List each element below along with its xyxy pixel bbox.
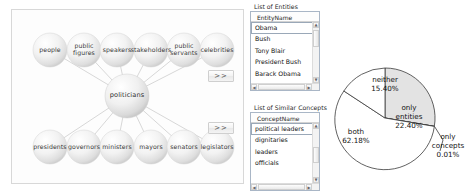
- concept-graph-panel: people public figures speakers stakehold…: [11, 9, 244, 184]
- coverage-pie-chart: neither 15.40% only entities 22.40% both…: [322, 55, 474, 192]
- scroll-left-icon[interactable]: ◀: [251, 84, 257, 90]
- pie-leader-line: [435, 127, 443, 151]
- list-item[interactable]: officials: [251, 158, 319, 170]
- concepts-rows: political leaders dignitaries leaders of…: [251, 123, 319, 183]
- entities-rows: Obama Bush Tony Blair President Bush Bar…: [251, 22, 319, 83]
- scroll-right-icon[interactable]: ▶: [306, 84, 312, 90]
- graph-edges: [12, 10, 243, 183]
- concepts-horizontal-scrollbar[interactable]: ◀ ▶: [251, 183, 319, 190]
- scroll-up-icon[interactable]: ▲: [313, 123, 319, 129]
- entities-column-header[interactable]: EntityName: [251, 12, 319, 22]
- list-item[interactable]: dignitaries: [251, 135, 319, 147]
- scroll-thumb[interactable]: [313, 147, 319, 163]
- table-row[interactable]: Tony Blair: [251, 45, 319, 57]
- scroll-up-icon[interactable]: ▲: [313, 22, 319, 28]
- pie-slice-only-entities[interactable]: [385, 68, 435, 126]
- concepts-column-header[interactable]: ConceptName: [251, 113, 319, 123]
- pie-svg: [322, 55, 474, 192]
- table-row[interactable]: Bush: [251, 34, 319, 46]
- concepts-vertical-scrollbar[interactable]: ▲ ▼: [312, 123, 319, 183]
- table-row[interactable]: Obama: [251, 22, 319, 34]
- table-row[interactable]: President Bush: [251, 57, 319, 69]
- scroll-right-icon[interactable]: ▶: [306, 184, 312, 190]
- screenshot-root: people public figures speakers stakehold…: [0, 0, 474, 192]
- concepts-panel: List of Similar Concepts ConceptName pol…: [250, 104, 320, 191]
- entities-vertical-scrollbar[interactable]: ▲ ▼: [312, 22, 319, 83]
- scroll-thumb[interactable]: [258, 84, 305, 90]
- entities-panel: List of Entities EntityName Obama Bush T…: [250, 3, 320, 91]
- list-item[interactable]: leaders: [251, 146, 319, 158]
- scroll-left-icon[interactable]: ◀: [251, 184, 257, 190]
- concepts-grid[interactable]: ConceptName political leaders dignitarie…: [250, 112, 320, 191]
- list-item[interactable]: political leaders: [251, 123, 319, 135]
- entities-caption: List of Entities: [250, 3, 320, 10]
- expand-top-button[interactable]: >>: [208, 70, 234, 82]
- concepts-caption: List of Similar Concepts: [250, 104, 320, 111]
- expand-bottom-button[interactable]: >>: [208, 122, 234, 134]
- table-row[interactable]: Barack Obama: [251, 68, 319, 80]
- scroll-thumb[interactable]: [313, 30, 319, 47]
- entities-horizontal-scrollbar[interactable]: ◀ ▶: [251, 83, 319, 90]
- scroll-thumb[interactable]: [258, 184, 305, 190]
- entities-grid[interactable]: EntityName Obama Bush Tony Blair Preside…: [250, 11, 320, 91]
